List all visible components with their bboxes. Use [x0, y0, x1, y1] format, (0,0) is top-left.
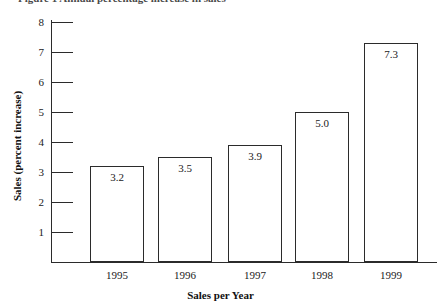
x-category-label: 1998	[289, 270, 355, 281]
y-tick-label: 6	[22, 77, 44, 88]
bar-chart-figure: Figure 1 Annual percentage increase in s…	[0, 0, 441, 307]
x-category-label: 1997	[222, 270, 288, 281]
y-tick-mark	[52, 232, 73, 233]
y-tick-label: 4	[22, 137, 44, 148]
y-axis-title: Sales (percent increase)	[11, 66, 23, 226]
x-category-label: 1995	[84, 270, 150, 281]
bar	[295, 112, 349, 262]
bar-value-label: 3.2	[90, 172, 144, 183]
x-category-label: 1999	[358, 270, 424, 281]
x-axis-title: Sales per Year	[0, 289, 441, 301]
y-tick-label: 3	[22, 167, 44, 178]
bar-value-label: 3.5	[158, 163, 212, 174]
y-tick-mark	[52, 202, 73, 203]
bar	[228, 145, 282, 262]
bar-value-label: 7.3	[364, 49, 418, 60]
y-tick-mark	[52, 172, 73, 173]
y-tick-label: 2	[22, 197, 44, 208]
y-tick-mark	[52, 112, 73, 113]
y-tick-label: 1	[22, 227, 44, 238]
y-tick-mark	[52, 52, 73, 53]
y-tick-label: 8	[22, 17, 44, 28]
y-tick-mark	[52, 22, 73, 23]
bar-value-label: 5.0	[295, 118, 349, 129]
y-tick-label: 5	[22, 107, 44, 118]
y-tick-label: 7	[22, 47, 44, 58]
x-axis-line	[51, 262, 437, 263]
x-category-label: 1996	[152, 270, 218, 281]
bar	[364, 43, 418, 262]
clipped-caption-text: Figure 1 Annual percentage increase in s…	[18, 0, 348, 5]
y-tick-mark	[52, 82, 73, 83]
bar-value-label: 3.9	[228, 151, 282, 162]
y-tick-mark	[52, 142, 73, 143]
